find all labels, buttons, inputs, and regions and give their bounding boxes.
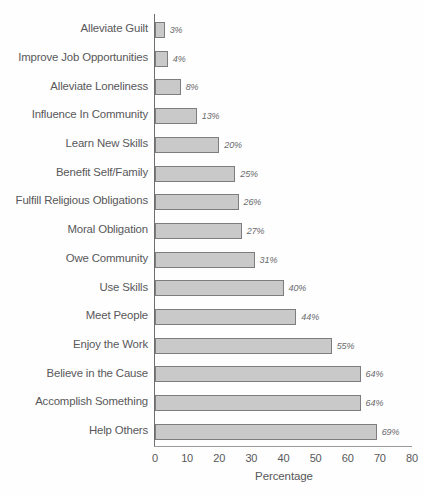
category-label: Meet People [86, 309, 148, 321]
x-tick-label: 10 [181, 452, 193, 464]
bar [155, 366, 361, 382]
bar-track: 3% [155, 20, 182, 36]
category-label: Accomplish Something [35, 395, 148, 407]
bar-chart: Alleviate Guilt3%Improve Job Opportuniti… [0, 0, 425, 495]
bar [155, 166, 235, 182]
category-label: Use Skills [99, 281, 148, 293]
bar-track: 64% [155, 393, 383, 409]
bar-row: Alleviate Guilt3% [0, 14, 425, 43]
bar [155, 108, 197, 124]
bar-track: 20% [155, 135, 242, 151]
bar-row: Accomplish Something64% [0, 387, 425, 416]
bar-track: 31% [155, 250, 277, 266]
bar [155, 309, 296, 325]
bar-value-label: 26% [244, 197, 262, 207]
category-label: Moral Obligation [67, 223, 148, 235]
bar-row: Learn New Skills20% [0, 129, 425, 158]
bar-row: Owe Community31% [0, 244, 425, 273]
bar-track: 27% [155, 221, 264, 237]
bar [155, 194, 239, 210]
bar [155, 22, 165, 38]
bar-row: Improve Job Opportunities4% [0, 43, 425, 72]
x-tick-label: 0 [152, 452, 158, 464]
bar-value-label: 69% [382, 427, 400, 437]
bar-value-label: 64% [366, 398, 384, 408]
bar-row: Enjoy the Work55% [0, 330, 425, 359]
x-tick-label: 50 [310, 452, 322, 464]
bar-value-label: 20% [224, 140, 242, 150]
bar-track: 25% [155, 164, 258, 180]
bar-track: 64% [155, 365, 383, 381]
x-tick-label: 60 [342, 452, 354, 464]
bar-value-label: 13% [202, 111, 220, 121]
category-label: Alleviate Loneliness [50, 80, 148, 92]
category-label: Influence In Community [32, 108, 148, 120]
x-axis-spine [154, 446, 412, 447]
bar [155, 79, 181, 95]
bar-value-label: 44% [301, 312, 319, 322]
category-label: Learn New Skills [66, 137, 148, 149]
bar-row: Moral Obligation27% [0, 215, 425, 244]
bar-track: 13% [155, 106, 219, 122]
bar-value-label: 27% [247, 226, 265, 236]
x-tick-label: 80 [406, 452, 418, 464]
bar-track: 8% [155, 78, 199, 94]
bar-value-label: 3% [170, 25, 183, 35]
bar-value-label: 4% [173, 54, 186, 64]
x-axis-title: Percentage [155, 470, 413, 482]
bar-value-label: 64% [366, 369, 384, 379]
bar-value-label: 40% [289, 283, 307, 293]
category-label: Benefit Self/Family [56, 166, 148, 178]
bar-value-label: 25% [240, 169, 258, 179]
bar-row: Help Others69% [0, 416, 425, 445]
bar-value-label: 31% [260, 255, 278, 265]
bar [155, 395, 361, 411]
bar [155, 51, 168, 67]
bar-row: Fulfill Religious Obligations26% [0, 186, 425, 215]
bar [155, 137, 219, 153]
bar-track: 4% [155, 49, 186, 65]
category-label: Improve Job Opportunities [18, 51, 148, 63]
bar [155, 252, 255, 268]
bar-track: 44% [155, 307, 319, 323]
bar-row: Use Skills40% [0, 272, 425, 301]
bar-value-label: 8% [186, 82, 199, 92]
bar-row: Believe in the Cause64% [0, 358, 425, 387]
bar [155, 338, 332, 354]
category-label: Believe in the Cause [47, 367, 148, 379]
category-label: Help Others [89, 424, 148, 436]
x-tick-label: 20 [213, 452, 225, 464]
category-label: Fulfill Religious Obligations [16, 194, 148, 206]
bar-track: 26% [155, 192, 261, 208]
bar-series: Alleviate Guilt3%Improve Job Opportuniti… [0, 14, 425, 444]
bar-track: 55% [155, 336, 354, 352]
x-tick-label: 70 [374, 452, 386, 464]
x-axis-ticks: 01020304050607080 [0, 452, 425, 468]
bar [155, 223, 242, 239]
plot-area: Alleviate Guilt3%Improve Job Opportuniti… [0, 0, 425, 495]
x-tick-label: 40 [278, 452, 290, 464]
bar-row: Benefit Self/Family25% [0, 157, 425, 186]
bar-track: 40% [155, 279, 306, 295]
bar-row: Meet People44% [0, 301, 425, 330]
category-label: Alleviate Guilt [81, 22, 148, 34]
bar-track: 69% [155, 422, 399, 438]
bar [155, 424, 377, 440]
x-tick-label: 30 [245, 452, 257, 464]
bar-row: Influence In Community13% [0, 100, 425, 129]
bar [155, 280, 284, 296]
category-label: Enjoy the Work [73, 338, 148, 350]
category-label: Owe Community [66, 252, 148, 264]
bar-row: Alleviate Loneliness8% [0, 71, 425, 100]
bar-value-label: 55% [337, 341, 355, 351]
